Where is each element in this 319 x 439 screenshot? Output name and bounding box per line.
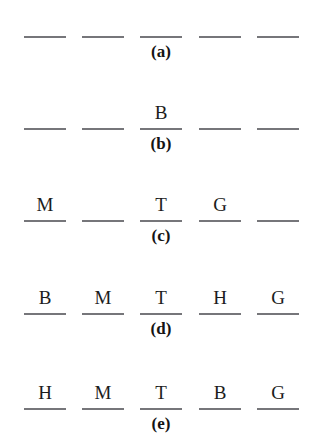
blank-underline [82, 408, 124, 410]
blank-slot[interactable] [257, 100, 299, 140]
blank-slot[interactable] [82, 100, 124, 140]
blank-underline [199, 408, 241, 410]
blank-slot-letter [24, 100, 66, 126]
blank-underline [24, 36, 66, 38]
blank-underline [82, 36, 124, 38]
blank-slot-letter: H [199, 285, 241, 311]
blank-slot[interactable]: G [257, 380, 299, 420]
blank-underline [140, 36, 182, 38]
blank-slot[interactable]: B [24, 285, 66, 325]
blank-underline [24, 408, 66, 410]
blank-slot-letter: T [140, 285, 182, 311]
blank-underline [140, 408, 182, 410]
blank-underline [257, 128, 299, 130]
blank-slot[interactable] [24, 8, 66, 48]
row-label: (b) [140, 132, 182, 156]
blank-slot-letter [24, 8, 66, 34]
row-label: (c) [140, 224, 182, 248]
blank-underline [140, 313, 182, 315]
blank-slot-letter [199, 100, 241, 126]
blank-slot-letter: G [257, 285, 299, 311]
blank-underline [140, 220, 182, 222]
blank-slot[interactable] [199, 100, 241, 140]
blank-slot-letter [257, 8, 299, 34]
blank-slot[interactable]: G [199, 192, 241, 232]
blank-slot-letter: G [257, 380, 299, 406]
blank-slot-letter: T [140, 380, 182, 406]
blank-underline [24, 128, 66, 130]
blank-slot-letter [82, 8, 124, 34]
blank-slot[interactable]: H [24, 380, 66, 420]
blank-underline [82, 128, 124, 130]
blank-slot-letter [257, 100, 299, 126]
row-label: (e) [140, 412, 182, 436]
blank-slot[interactable] [257, 8, 299, 48]
blank-slot[interactable]: M [82, 380, 124, 420]
blank-underline [257, 220, 299, 222]
blank-slot[interactable] [82, 192, 124, 232]
blank-slot-letter [82, 100, 124, 126]
blank-underline [199, 313, 241, 315]
blank-underline [82, 313, 124, 315]
blank-slot-letter [257, 192, 299, 218]
row-label: (a) [140, 40, 182, 64]
blank-underline [82, 220, 124, 222]
blank-underline [24, 313, 66, 315]
blank-underline [199, 128, 241, 130]
blank-slot[interactable]: B [199, 380, 241, 420]
row-label: (d) [140, 317, 182, 341]
blank-slot[interactable]: G [257, 285, 299, 325]
blank-slot[interactable] [199, 8, 241, 48]
blank-slot-letter: M [82, 380, 124, 406]
blank-slot-letter: B [199, 380, 241, 406]
blank-slot[interactable] [24, 100, 66, 140]
blank-slot-letter: G [199, 192, 241, 218]
blank-slot[interactable] [82, 8, 124, 48]
blank-slot[interactable]: M [82, 285, 124, 325]
fill-in-the-blank-figure: (a)B(b)MTG(c)BMTHG(d)HMTBG(e) [0, 0, 319, 439]
blank-slot-letter: B [140, 100, 182, 126]
blank-underline [257, 36, 299, 38]
blank-underline [199, 36, 241, 38]
blank-slot-letter: T [140, 192, 182, 218]
blank-slot-letter: B [24, 285, 66, 311]
blank-slot-letter: M [24, 192, 66, 218]
blank-underline [140, 128, 182, 130]
blank-underline [257, 408, 299, 410]
blank-underline [257, 313, 299, 315]
blank-slot-letter [140, 8, 182, 34]
blank-underline [199, 220, 241, 222]
blank-slot[interactable]: H [199, 285, 241, 325]
blank-underline [24, 220, 66, 222]
blank-slot-letter: M [82, 285, 124, 311]
blank-slot[interactable]: M [24, 192, 66, 232]
blank-slot[interactable] [257, 192, 299, 232]
blank-slot-letter [82, 192, 124, 218]
blank-slot-letter: H [24, 380, 66, 406]
blank-slot-letter [199, 8, 241, 34]
